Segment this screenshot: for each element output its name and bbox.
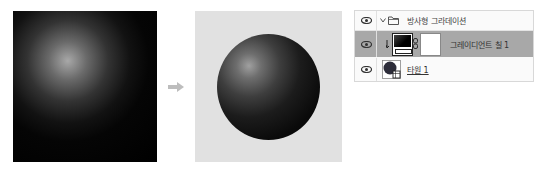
divider (376, 31, 377, 57)
sphere-shape (217, 34, 320, 140)
link-icon[interactable] (413, 38, 418, 49)
group-name[interactable]: 방사형 그라데이션 (407, 15, 466, 26)
gradient-bar (395, 49, 412, 54)
layer-group-row[interactable]: 방사형 그라데이션 (355, 11, 533, 31)
chevron-down-icon[interactable] (380, 18, 386, 23)
gradient-swatch (394, 35, 411, 47)
layer-name[interactable]: 그레이디언트 칠 1 (450, 39, 509, 50)
clip-arrow-icon (386, 40, 391, 49)
arrow-right-icon (168, 82, 184, 92)
layer-name[interactable]: 타원 1 (407, 64, 429, 75)
eye-icon[interactable] (361, 17, 372, 24)
eye-icon[interactable] (361, 66, 372, 73)
mask-thumbnail[interactable] (420, 33, 441, 56)
eye-icon[interactable] (361, 41, 372, 48)
divider (376, 11, 377, 30)
layers-panel: 방사형 그라데이션 그레이디언트 칠 1 타원 1 (354, 10, 534, 82)
divider (376, 58, 377, 81)
clipped-sphere-preview (195, 11, 342, 162)
layer-row-selected[interactable]: 그레이디언트 칠 1 (355, 31, 533, 57)
radial-gradient-fill-preview (13, 11, 157, 162)
shape-thumbnail[interactable] (382, 60, 401, 79)
gradient-fill-thumbnail[interactable] (392, 33, 413, 56)
layer-row[interactable]: 타원 1 (355, 58, 533, 81)
folder-icon (388, 16, 399, 25)
